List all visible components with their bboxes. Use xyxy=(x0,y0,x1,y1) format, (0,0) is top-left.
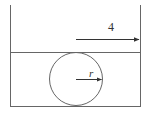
diagram-canvas: 4 r xyxy=(0,0,149,114)
radius-label: r xyxy=(89,67,94,79)
geometry-figure: 4 r xyxy=(0,0,149,114)
width-label: 4 xyxy=(108,20,114,34)
